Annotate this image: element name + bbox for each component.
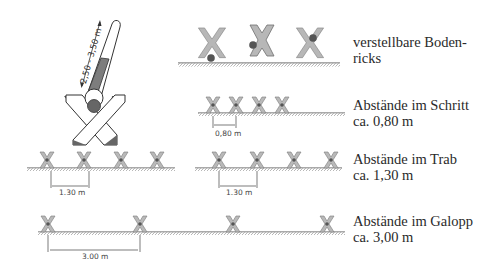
caption-line: ricks: [353, 50, 467, 66]
caption-line: Abstände im Galopp: [353, 213, 473, 229]
row-adjustable: [178, 25, 340, 67]
caption-adjustable: verstellbare Boden- ricks: [353, 34, 467, 66]
cavaletti-diagram: 2,50 - 3,50 m 0,80 m 1.30 m 1.30 m 3.00 …: [0, 0, 501, 268]
caption-line: ca. 3,00 m: [353, 229, 473, 245]
caption-line: verstellbare Boden-: [353, 34, 467, 50]
caption-walk: Abstände im Schritt ca. 0,80 m: [353, 97, 469, 129]
row-trot-right: [195, 152, 342, 188]
row-walk: [198, 97, 345, 128]
walk-distance-label: 0,80 m: [215, 129, 241, 138]
caption-line: Abstände im Schritt: [353, 97, 469, 113]
trot-right-distance-label: 1.30 m: [226, 188, 252, 197]
caption-canter: Abstände im Galopp ca. 3,00 m: [353, 213, 473, 245]
canter-distance-label: 3.00 m: [82, 252, 108, 261]
caption-line: ca. 0,80 m: [353, 113, 469, 129]
trot-left-distance-label: 1.30 m: [59, 188, 85, 197]
row-trot-left: [27, 152, 175, 188]
row-canter: [38, 216, 345, 252]
caption-line: Abstände im Trab: [353, 151, 457, 167]
caption-trot: Abstände im Trab ca. 1,30 m: [353, 151, 457, 183]
caption-line: ca. 1,30 m: [353, 167, 457, 183]
